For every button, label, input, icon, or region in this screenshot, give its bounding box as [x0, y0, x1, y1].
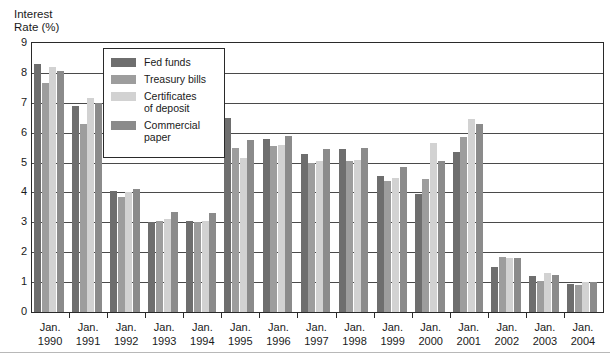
x-axis-tick-mark — [526, 313, 527, 318]
bar-group — [32, 43, 70, 312]
bar — [278, 145, 285, 312]
bar-group — [489, 43, 527, 312]
bar — [582, 282, 589, 312]
y-axis-tick-label: 5 — [5, 156, 27, 168]
bar — [377, 176, 384, 312]
bar — [232, 148, 239, 312]
bar — [209, 213, 216, 312]
x-axis-tick-mark — [69, 313, 70, 318]
bar — [270, 146, 277, 312]
bar — [316, 161, 323, 312]
bar — [384, 181, 391, 313]
bar-group — [451, 43, 489, 312]
bar — [308, 163, 315, 312]
legend-item-label: Commercial paper — [144, 119, 200, 143]
bar — [224, 118, 231, 312]
legend-swatch-commercial-paper — [111, 121, 136, 130]
bar — [354, 160, 361, 312]
bar — [164, 219, 171, 312]
bar — [247, 140, 254, 312]
x-axis-tick-mark — [107, 313, 108, 318]
x-axis-tick-mark — [221, 313, 222, 318]
bar — [415, 194, 422, 312]
x-axis-tick-mark — [145, 313, 146, 318]
legend-item-label: Treasury bills — [144, 73, 206, 85]
chart-legend: Fed fundsTreasury billsCertificates of d… — [103, 48, 225, 158]
x-axis-tick-mark — [374, 313, 375, 318]
bar-group — [413, 43, 451, 312]
bar — [34, 64, 41, 312]
legend-item: Treasury bills — [111, 73, 218, 85]
bar — [194, 222, 201, 312]
legend-item: Commercial paper — [111, 119, 218, 143]
bar — [57, 71, 64, 312]
bar — [125, 192, 132, 312]
bar — [438, 161, 445, 312]
bar — [575, 285, 582, 312]
y-axis-tick-label: 7 — [5, 96, 27, 108]
bar — [460, 137, 467, 312]
bar — [171, 212, 178, 312]
bar — [422, 179, 429, 312]
bar — [339, 149, 346, 312]
bar — [468, 119, 475, 312]
bar-group — [375, 43, 413, 312]
bar-group — [527, 43, 565, 312]
legend-item: Certificates of deposit — [111, 90, 218, 114]
bar-group — [298, 43, 336, 312]
bar — [537, 281, 544, 312]
bar — [49, 67, 56, 312]
bar — [133, 189, 140, 312]
x-axis-tick-mark — [450, 313, 451, 318]
bar — [285, 136, 292, 312]
bar — [110, 191, 117, 312]
bar — [80, 124, 87, 312]
bar — [361, 148, 368, 312]
x-axis-tick-marks — [31, 313, 604, 319]
bar — [95, 103, 102, 312]
y-axis-tick-label: 6 — [5, 126, 27, 138]
bar — [491, 267, 498, 312]
bar — [87, 98, 94, 312]
bar — [301, 154, 308, 312]
x-axis-tick-mark — [336, 313, 337, 318]
legend-item-label: Fed funds — [144, 56, 191, 68]
x-axis-label-year: 2004 — [561, 334, 605, 348]
bar — [400, 167, 407, 312]
legend-swatch-certificates-of-deposit — [111, 92, 136, 101]
bar-group — [260, 43, 298, 312]
bar — [567, 284, 574, 312]
y-axis-tick-label: 2 — [5, 245, 27, 257]
y-axis-tick-label: 1 — [5, 275, 27, 287]
x-axis-tick-mark — [564, 313, 565, 318]
bar — [529, 276, 536, 312]
bar — [392, 178, 399, 313]
y-axis-tick-label: 9 — [5, 36, 27, 48]
bar — [590, 282, 597, 312]
legend-swatch-fed-funds — [111, 58, 136, 67]
bar — [514, 258, 521, 312]
y-axis-tick-labels: 9876543210 — [0, 42, 27, 313]
bar — [476, 124, 483, 312]
bar — [499, 257, 506, 312]
bar — [42, 83, 49, 312]
x-axis-tick-mark — [412, 313, 413, 318]
chart-figure: Interest Rate (%) 9876543210 Jan.1990Jan… — [0, 0, 610, 361]
bar — [202, 221, 209, 312]
x-axis-tick-mark — [297, 313, 298, 318]
bar — [72, 106, 79, 312]
bar — [544, 273, 551, 312]
bar — [430, 143, 437, 312]
bar — [552, 275, 559, 312]
bar — [240, 158, 247, 312]
x-axis-tick-mark — [259, 313, 260, 318]
bar — [506, 258, 513, 312]
bar — [156, 221, 163, 312]
legend-item-label: Certificates of deposit — [144, 90, 197, 114]
bar — [323, 149, 330, 312]
bar-group — [222, 43, 260, 312]
legend-item: Fed funds — [111, 56, 218, 68]
x-axis-tick-mark — [183, 313, 184, 318]
y-axis-title: Interest Rate (%) — [14, 8, 59, 34]
bar — [148, 222, 155, 312]
